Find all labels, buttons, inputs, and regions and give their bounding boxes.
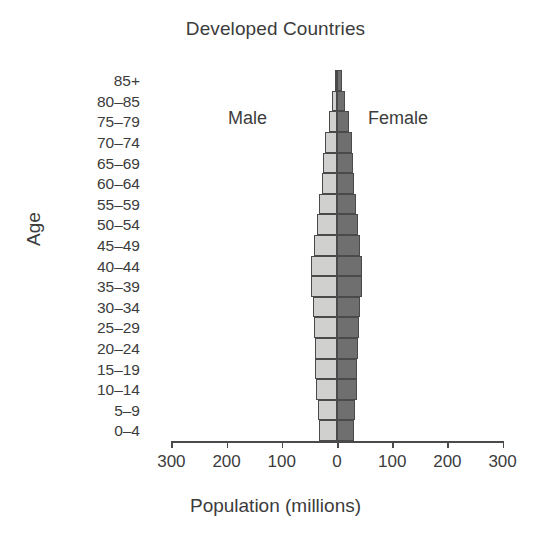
bar-female [337,420,354,441]
x-tick-label: 300 [488,452,516,472]
pyramid-row [0,338,551,359]
bar-male [319,420,337,441]
pyramid-row [0,256,551,277]
bar-male [311,256,337,277]
x-tick-label: 200 [212,452,240,472]
bar-male [319,194,337,215]
x-tick-label: 300 [157,452,185,472]
bar-male [314,235,337,256]
pyramid-row [0,153,551,174]
pyramid-row [0,70,551,91]
pyramid-row [0,235,551,256]
x-tick-mark [227,441,229,448]
x-tick-mark [171,441,173,448]
pyramid-row [0,194,551,215]
pyramid-row [0,214,551,235]
x-tick-label: 200 [433,452,461,472]
x-tick-mark [282,441,284,448]
bar-female [337,173,354,194]
plot-area: 0–45–910–1415–1920–2425–2930–3435–3940–4… [0,0,551,537]
population-pyramid-figure: Developed Countries Age 0–45–910–1415–19… [0,0,551,537]
bar-male [322,173,337,194]
bar-female [337,153,353,174]
x-tick-label: 100 [378,452,406,472]
bar-male [325,132,337,153]
bar-male [311,276,337,297]
bar-male [317,214,337,235]
x-tick-mark [503,441,505,448]
bar-male [313,297,337,318]
bar-female [337,111,349,132]
pyramid-row [0,297,551,318]
pyramid-row [0,132,551,153]
series-annotation-male: Male [228,108,267,129]
pyramid-row [0,276,551,297]
bar-female [337,256,362,277]
bar-female [337,70,342,91]
x-tick-label: 100 [268,452,296,472]
pyramid-row [0,420,551,441]
pyramid-row [0,359,551,380]
x-tick-label: 0 [332,452,341,472]
bar-female [337,379,357,400]
bar-female [337,338,358,359]
x-tick-mark [337,441,339,448]
bar-female [337,214,358,235]
bar-female [337,297,360,318]
bar-male [315,359,337,380]
pyramid-row [0,111,551,132]
pyramid-row [0,379,551,400]
bar-female [337,132,352,153]
bar-male [316,379,337,400]
bar-female [337,359,357,380]
pyramid-row [0,173,551,194]
x-tick-mark [392,441,394,448]
x-axis-title: Population (millions) [0,495,551,517]
bar-male [318,400,337,421]
bar-female [337,194,356,215]
pyramid-row [0,317,551,338]
bar-male [323,153,337,174]
bar-female [337,91,345,112]
bar-female [337,276,362,297]
pyramid-row [0,400,551,421]
bar-female [337,317,359,338]
bar-male [329,111,337,132]
bar-female [337,235,360,256]
x-tick-mark [447,441,449,448]
bar-male [314,317,337,338]
series-annotation-female: Female [368,108,428,129]
bar-female [337,400,355,421]
bar-male [315,338,337,359]
pyramid-row [0,91,551,112]
